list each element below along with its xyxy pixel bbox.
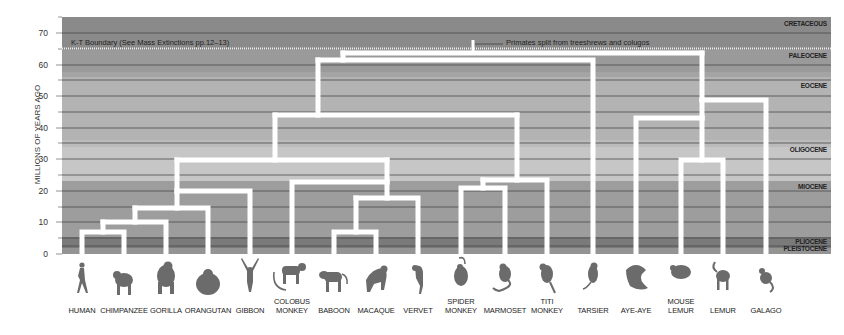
baboon-icon <box>319 271 347 292</box>
orangutan-icon <box>196 269 220 295</box>
marmoset-icon <box>493 264 511 292</box>
species-label-chimpanzee: CHIMPANZEE <box>100 297 148 315</box>
species-label-colobus-monkey: COLOBUSMONKEY <box>274 297 310 315</box>
species-label-lemur: LEMUR <box>710 297 736 315</box>
y-tick-0: 0 <box>28 249 48 259</box>
colobus-icon <box>274 263 306 290</box>
axis-ticks <box>56 17 62 254</box>
y-tick-50: 50 <box>28 91 48 101</box>
species-silhouettes <box>77 258 773 295</box>
chimpanzee-icon <box>113 271 133 295</box>
y-tick-70: 70 <box>28 28 48 38</box>
species-label-human: HUMAN <box>69 297 96 315</box>
epoch-cretaceous: CRETACEOUS <box>784 20 827 27</box>
species-label-marmoset: MARMOSET <box>484 297 527 315</box>
tarsier-icon <box>583 263 598 290</box>
macaque-icon <box>366 266 388 293</box>
vervet-icon <box>412 265 423 294</box>
species-label-macaque: MACAQUE <box>357 297 394 315</box>
species-label-mouse-lemur: MOUSELEMUR <box>667 297 694 315</box>
epoch-oligocene: OLIGOCENE <box>790 146 827 153</box>
tree-canvas <box>0 0 844 335</box>
primate-evolution-diagram: MILLIONS OF YEARS AGO 0 10 20 30 40 50 6… <box>0 0 844 335</box>
band-pleistocene <box>62 248 831 254</box>
epoch-eocene: EOCENE <box>801 82 827 89</box>
primates-split-annotation: Primates split from treeshrews and colug… <box>506 38 649 47</box>
species-label-baboon: BABOON <box>318 297 350 315</box>
species-label-orangutan: ORANGUTAN <box>185 297 231 315</box>
gorilla-icon <box>157 262 175 295</box>
epoch-paleocene: PALEOCENE <box>789 52 827 59</box>
species-label-gibbon: GIBBON <box>236 297 265 315</box>
lemur-icon <box>713 262 730 290</box>
galago-icon <box>759 268 773 292</box>
epoch-miocene: MIOCENE <box>798 183 827 190</box>
epoch-pleistocene: PLEISTOCENE <box>783 245 827 252</box>
kt-boundary-annotation: K-T Boundary (See Mass Extinctions pp.12… <box>71 38 229 47</box>
human-icon <box>77 262 88 293</box>
species-label-tarsier: TARSIER <box>577 297 608 315</box>
y-tick-60: 60 <box>28 60 48 70</box>
species-label-vervet: VERVET <box>403 297 432 315</box>
gibbon-icon <box>241 258 259 292</box>
species-label-titi-monkey: TITIMONKEY <box>531 297 563 315</box>
y-tick-30: 30 <box>28 154 48 164</box>
y-tick-10: 10 <box>28 217 48 227</box>
species-label-aye-aye: AYE-AYE <box>621 297 652 315</box>
y-tick-40: 40 <box>28 123 48 133</box>
titi-icon <box>540 264 556 294</box>
aye-aye-icon <box>626 265 648 290</box>
species-label-spider-monkey: SPIDERMONKEY <box>445 297 477 315</box>
species-label-galago: GALAGO <box>750 297 781 315</box>
mouse-lemur-icon <box>670 265 691 279</box>
y-tick-20: 20 <box>28 186 48 196</box>
species-label-gorilla: GORILLA <box>150 297 182 315</box>
spider-monkey-icon <box>454 258 468 286</box>
epoch-pliocene: PLIOCENE <box>795 238 827 245</box>
